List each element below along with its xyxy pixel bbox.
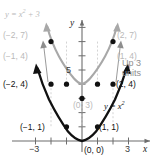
shifted-eq-base: y = x [5, 9, 23, 19]
base-eq-base: y = x [104, 101, 122, 111]
label-base-1-1: (1, 1) [99, 123, 119, 132]
label-shifted-neg2-7: (−2, 7) [3, 31, 28, 40]
y-axis-arrowhead [80, 20, 84, 26]
point-shifted-1-4 [95, 82, 100, 87]
shifted-eq-suffix: + 3 [26, 9, 40, 19]
x-axis-arrowhead [145, 139, 151, 143]
label-shifted-neg1-4: (−1, 4) [3, 52, 28, 61]
shift-annotation-line1: Up 3 [122, 58, 141, 68]
shift-arrow-left [40, 41, 48, 83]
y-tick-label-5: 5 [66, 66, 71, 75]
shifted-curve-left-arrowhead [43, 23, 51, 32]
label-base-neg1-1: (−1, 1) [20, 123, 45, 132]
x-tick-label-neg3: −3 [29, 145, 39, 154]
shift-annotation-line2: units [122, 68, 141, 78]
label-base-2-4: (2, 4) [116, 80, 136, 89]
x-axis-label: x [143, 145, 147, 155]
point-base-2-4 [110, 82, 115, 87]
parabola-translation-figure: y = x2 + 3 (−2, 7) (−1, 4) (−2, 4) (−1, … [0, 0, 156, 164]
shifted-curve-equation-label: y = x2 + 3 [5, 8, 40, 18]
x-tick-label-3: 3 [125, 145, 130, 154]
point-shifted-neg1-4 [64, 82, 69, 87]
label-shifted-2-7: (2, 7) [117, 31, 137, 40]
point-base-neg1-1 [64, 124, 69, 129]
label-base-0-0: (0, 0) [84, 146, 104, 155]
shift-annotation: Up 3 units [122, 58, 141, 79]
point-shifted-2-7 [110, 39, 115, 44]
y-axis-label: y [70, 19, 74, 29]
point-base-neg2-4 [48, 82, 53, 87]
point-shifted-neg2-7 [48, 39, 53, 44]
label-shifted-0-3: (0, 3) [73, 101, 93, 110]
base-curve-left-arrowhead [33, 64, 42, 75]
base-curve-equation-label: y = x2 [104, 100, 125, 110]
label-base-neg2-4: (−2, 4) [3, 80, 28, 89]
base-eq-exponent: 2 [122, 100, 125, 106]
